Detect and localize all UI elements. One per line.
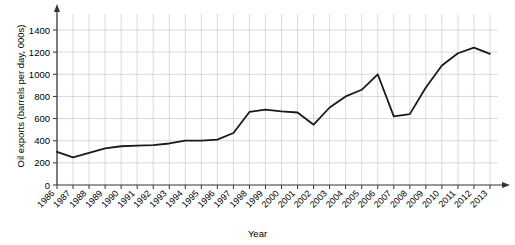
y-tick-label: 1200 (29, 47, 50, 58)
x-tick-label: 2004 (324, 188, 345, 209)
x-tick-label: 2007 (372, 188, 393, 209)
y-tick-label: 1000 (29, 69, 50, 80)
x-tick-label: 1990 (99, 188, 120, 209)
x-tick-label: 1996 (196, 188, 217, 209)
y-tick-label: 1400 (29, 25, 50, 36)
x-tick-label: 1997 (212, 188, 233, 209)
x-tick-label: 1991 (115, 188, 136, 209)
x-tick-label: 1993 (147, 188, 168, 209)
x-tick-label: 2000 (260, 188, 281, 209)
x-tick-label: 1995 (180, 188, 201, 209)
y-tick-label: 600 (34, 113, 50, 124)
x-tick-label: 2005 (340, 188, 361, 209)
y-tick-label: 400 (34, 135, 50, 146)
x-tick-label: 2008 (388, 188, 409, 209)
x-tick-label: 2006 (356, 188, 377, 209)
oil-exports-line-chart: Oil exports (barrels per day, 000s) 0200… (0, 0, 515, 245)
y-tick-label: 200 (34, 157, 50, 168)
x-tick-label: 2001 (276, 188, 297, 209)
x-tick-label: 2002 (292, 188, 313, 209)
x-axis-title: Year (0, 228, 515, 239)
plot-area: 0200400600800100012001400 19861987198819… (0, 0, 515, 245)
y-axis-ticks: 0200400600800100012001400 (29, 25, 57, 191)
x-tick-label: 2010 (420, 188, 441, 209)
x-tick-label: 2009 (404, 188, 425, 209)
x-axis-ticks: 1986198719881989199019911992199319941995… (35, 185, 490, 210)
grid-lines (57, 14, 498, 185)
x-tick-label: 1986 (35, 188, 56, 209)
x-tick-label: 2013 (468, 188, 489, 209)
y-tick-label: 800 (34, 91, 50, 102)
x-tick-label: 1988 (67, 188, 88, 209)
x-tick-label: 1999 (244, 188, 265, 209)
x-tick-label: 2012 (452, 188, 473, 209)
x-tick-label: 1998 (228, 188, 249, 209)
x-tick-label: 2003 (308, 188, 329, 209)
x-tick-label: 1994 (163, 188, 184, 209)
x-tick-label: 1992 (131, 188, 152, 209)
x-tick-label: 1987 (51, 188, 72, 209)
x-tick-label: 1989 (83, 188, 104, 209)
